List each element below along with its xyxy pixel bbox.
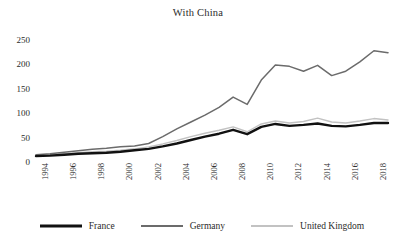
legend-swatch-line (251, 222, 293, 230)
x-tick-label: 1998 (96, 163, 106, 180)
y-tick-label: 250 (17, 35, 31, 45)
x-tick-label: 2014 (322, 163, 332, 180)
legend-label: United Kingdom (300, 221, 364, 231)
y-tick-label: 0 (26, 157, 31, 167)
chart-legend: FranceGermanyUnited Kingdom (0, 213, 396, 239)
legend-label: France (89, 221, 115, 231)
plot-area (36, 40, 388, 162)
x-tick-label: 2004 (181, 163, 191, 180)
y-tick-label: 50 (21, 133, 30, 143)
x-tick-label: 2000 (124, 163, 134, 180)
series-line-germany (36, 51, 388, 155)
y-tick-label: 150 (17, 84, 31, 94)
chart-figure: With China 050100150200250 1994199619982… (0, 0, 396, 249)
x-tick-label: 2018 (378, 163, 388, 180)
y-tick-label: 100 (17, 108, 31, 118)
y-axis: 050100150200250 (0, 40, 34, 162)
plot-svg (36, 40, 388, 162)
legend-swatch-line (141, 222, 183, 230)
legend-item-united-kingdom[interactable]: United Kingdom (251, 221, 364, 231)
x-tick-label: 1994 (40, 163, 50, 180)
x-axis: 1994199619982000200220042006200820102012… (36, 163, 388, 207)
legend-swatch-line (40, 222, 82, 230)
x-tick-label: 2010 (265, 163, 275, 180)
x-tick-label: 2016 (350, 163, 360, 180)
legend-item-france[interactable]: France (40, 221, 115, 231)
x-tick-label: 2002 (153, 163, 163, 180)
x-tick-label: 2008 (237, 163, 247, 180)
x-tick-label: 1996 (68, 163, 78, 180)
legend-item-germany[interactable]: Germany (141, 221, 225, 231)
y-tick-label: 200 (17, 59, 31, 69)
chart-title: With China (0, 7, 396, 18)
legend-label: Germany (190, 221, 225, 231)
x-tick-label: 2012 (293, 163, 303, 180)
x-tick-label: 2006 (209, 163, 219, 180)
series-line-france (36, 123, 388, 156)
